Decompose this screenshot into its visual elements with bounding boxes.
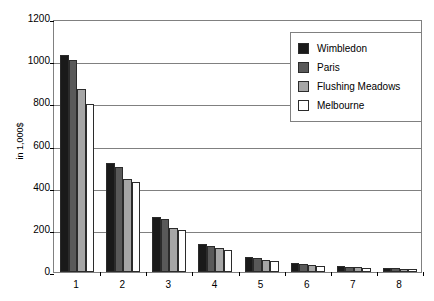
- x-tick-mark: [331, 272, 332, 276]
- bar: [391, 268, 400, 272]
- bar: [198, 244, 207, 272]
- x-tick-mark: [146, 272, 147, 276]
- y-axis-tick-labels: 120010008006004002000: [12, 0, 50, 301]
- bar: [115, 167, 124, 272]
- legend-label: Melbourne: [317, 100, 364, 111]
- y-tick-label: 1000: [16, 56, 50, 66]
- y-tick-label: 200: [16, 225, 50, 235]
- x-tick-mark: [192, 272, 193, 276]
- y-tick-label: 400: [16, 183, 50, 193]
- legend-swatch-icon: [298, 81, 309, 92]
- x-tick-label: 6: [292, 279, 322, 290]
- bar: [60, 55, 69, 272]
- legend-swatch-icon: [298, 43, 309, 54]
- x-tick-label: 8: [384, 279, 414, 290]
- bar: [383, 268, 392, 272]
- bar: [270, 261, 279, 272]
- legend-item[interactable]: Melbourne: [298, 96, 415, 115]
- bar: [169, 228, 178, 272]
- bar: [215, 248, 224, 272]
- bar: [207, 246, 216, 272]
- x-tick-mark: [377, 272, 378, 276]
- bar: [77, 89, 86, 272]
- x-tick-label: 2: [107, 279, 137, 290]
- legend-label: Paris: [317, 62, 340, 73]
- y-tick-label: 800: [16, 98, 50, 108]
- x-tick-mark: [285, 272, 286, 276]
- y-tick-mark: [50, 274, 54, 275]
- bar: [337, 266, 346, 272]
- x-tick-label: 7: [338, 279, 368, 290]
- bar: [86, 104, 95, 272]
- legend-swatch-icon: [298, 62, 309, 73]
- legend-swatch-icon: [298, 100, 309, 111]
- x-tick-mark: [423, 272, 424, 276]
- y-tick-label: 0: [16, 267, 50, 277]
- x-tick-label: 3: [153, 279, 183, 290]
- bar: [400, 269, 409, 272]
- bar: [178, 230, 187, 272]
- legend-label: Wimbledon: [317, 43, 367, 54]
- bar: [106, 163, 115, 272]
- x-tick-label: 1: [61, 279, 91, 290]
- legend-item[interactable]: Flushing Meadows: [298, 77, 415, 96]
- x-tick-label: 5: [246, 279, 276, 290]
- bar: [224, 250, 233, 272]
- legend-item[interactable]: Wimbledon: [298, 39, 415, 58]
- x-tick-mark: [100, 272, 101, 276]
- bar: [308, 265, 317, 272]
- bar: [354, 267, 363, 272]
- bar-chart: in 1,000$ 120010008006004002000 12345678…: [0, 0, 434, 301]
- bar: [132, 182, 141, 272]
- bar: [299, 264, 308, 272]
- bar: [69, 60, 78, 272]
- legend-item[interactable]: Paris: [298, 58, 415, 77]
- y-tick-label: 600: [16, 141, 50, 151]
- bar: [291, 263, 300, 272]
- bar: [316, 266, 325, 272]
- legend: WimbledonParisFlushing MeadowsMelbourne: [290, 32, 422, 122]
- bar: [262, 260, 271, 272]
- bar: [408, 269, 417, 272]
- bar: [123, 179, 132, 272]
- bar: [362, 268, 371, 272]
- bar: [253, 258, 262, 272]
- bar: [161, 219, 170, 272]
- bar: [152, 217, 161, 272]
- legend-label: Flushing Meadows: [317, 81, 400, 92]
- x-tick-label: 4: [199, 279, 229, 290]
- bar: [245, 257, 254, 272]
- bar: [345, 267, 354, 272]
- y-tick-label: 1200: [16, 14, 50, 24]
- x-tick-mark: [239, 272, 240, 276]
